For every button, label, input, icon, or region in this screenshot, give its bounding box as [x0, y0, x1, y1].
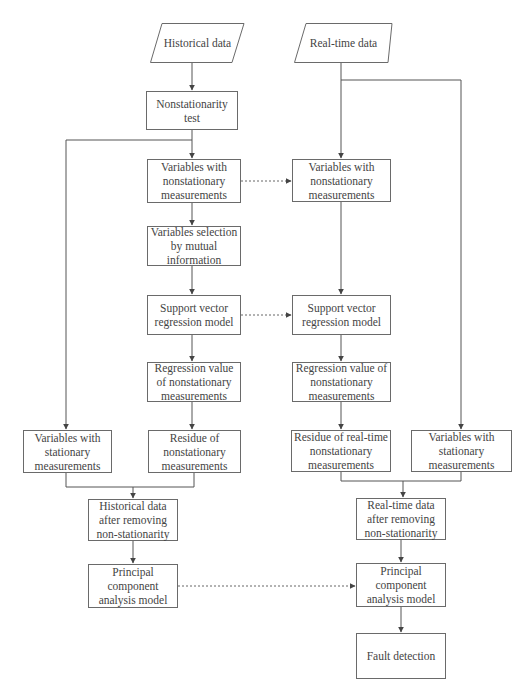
box-pca-model-right: Principal component analysis model	[356, 563, 446, 607]
box-variables-nonstationary-right: Variables with nonstationary measurement…	[292, 159, 391, 202]
input-realtime-label: Real-time data	[310, 37, 377, 49]
box-historical-after-removing: Historical data after removing non-stati…	[88, 499, 178, 541]
box-regression-value-right: Regression value of nonstationary measur…	[292, 362, 391, 402]
connector-layer	[0, 0, 527, 696]
box-realtime-after-removing: Real-time data after removing non-statio…	[356, 498, 446, 540]
box-svr-model-right: Support vector regression model	[292, 295, 391, 335]
box-regression-value-left: Regression value of nonstationary measur…	[147, 362, 241, 402]
input-historical-label: Historical data	[164, 37, 231, 49]
box-variables-stationary-right: Variables with stationary measurements	[411, 430, 512, 472]
box-fault-detection: Fault detection	[356, 633, 446, 679]
box-variables-stationary-left: Variables with stationary measurements	[23, 430, 112, 473]
input-realtime-data: Real-time data	[294, 23, 393, 63]
box-residue-right: Residue of real-time nonstationary measu…	[291, 430, 391, 472]
join-right	[341, 472, 461, 481]
box-nonstationarity-test: Nonstationarity test	[146, 91, 238, 130]
box-pca-model-left: Principal component analysis model	[88, 564, 178, 608]
input-historical-data: Historical data	[150, 23, 245, 63]
join-left	[66, 473, 194, 487]
box-residue-left: Residue of nonstationary measurements	[148, 430, 241, 473]
box-variables-selection: Variables selection by mutual informatio…	[147, 226, 241, 266]
box-variables-nonstationary-left: Variables with nonstationary measurement…	[147, 159, 241, 203]
box-svr-model-left: Support vector regression model	[147, 295, 241, 335]
